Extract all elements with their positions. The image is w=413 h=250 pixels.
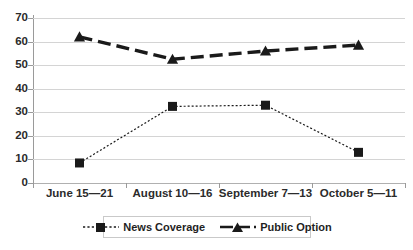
series-line-news-coverage	[80, 105, 359, 163]
x-axis-tick	[126, 183, 127, 188]
y-axis-tick	[28, 18, 33, 19]
series-layer	[33, 18, 405, 183]
x-axis-label: September 7—13	[219, 188, 312, 200]
square-marker-icon	[82, 221, 120, 233]
x-axis-label: October 5—11	[320, 188, 397, 200]
y-axis-labels: 010203040506070	[0, 18, 28, 183]
chart-legend: News Coverage Public Option	[103, 216, 311, 238]
plot-area	[33, 18, 405, 183]
y-axis-label: 10	[2, 153, 28, 165]
y-axis-label: 30	[2, 106, 28, 118]
data-point-marker[interactable]	[75, 158, 84, 167]
data-point-marker[interactable]	[261, 101, 270, 110]
y-axis-label: 60	[2, 36, 28, 48]
y-axis-tick	[28, 89, 33, 90]
y-axis-label: 0	[2, 177, 28, 189]
y-axis-label: 70	[2, 12, 28, 24]
x-axis-labels: June 15—21August 10—16September 7—13Octo…	[33, 188, 405, 208]
data-point-marker[interactable]	[354, 148, 363, 157]
y-axis-tick	[28, 159, 33, 160]
y-axis-label: 20	[2, 130, 28, 142]
legend-label-news-coverage: News Coverage	[123, 222, 205, 233]
line-chart: 010203040506070 June 15—21August 10—16Se…	[0, 0, 413, 250]
legend-item-news-coverage[interactable]: News Coverage	[82, 221, 205, 233]
x-axis-tick	[219, 183, 220, 188]
x-axis-tick	[405, 183, 406, 188]
y-axis-label: 50	[2, 59, 28, 71]
triangle-marker-icon	[219, 221, 257, 233]
x-axis-label: June 15—21	[46, 188, 113, 200]
y-axis-tick	[28, 112, 33, 113]
legend-label-public-option: Public Option	[260, 222, 332, 233]
y-axis-tick	[28, 136, 33, 137]
legend-item-public-option[interactable]: Public Option	[219, 221, 332, 233]
data-point-marker[interactable]	[168, 102, 177, 111]
y-axis-tick	[28, 65, 33, 66]
x-axis-label: August 10—16	[133, 188, 213, 200]
x-axis-tick	[33, 183, 34, 188]
y-axis-tick	[28, 42, 33, 43]
x-axis-tick	[312, 183, 313, 188]
series-line-public-option	[80, 37, 359, 59]
y-axis-label: 40	[2, 83, 28, 95]
